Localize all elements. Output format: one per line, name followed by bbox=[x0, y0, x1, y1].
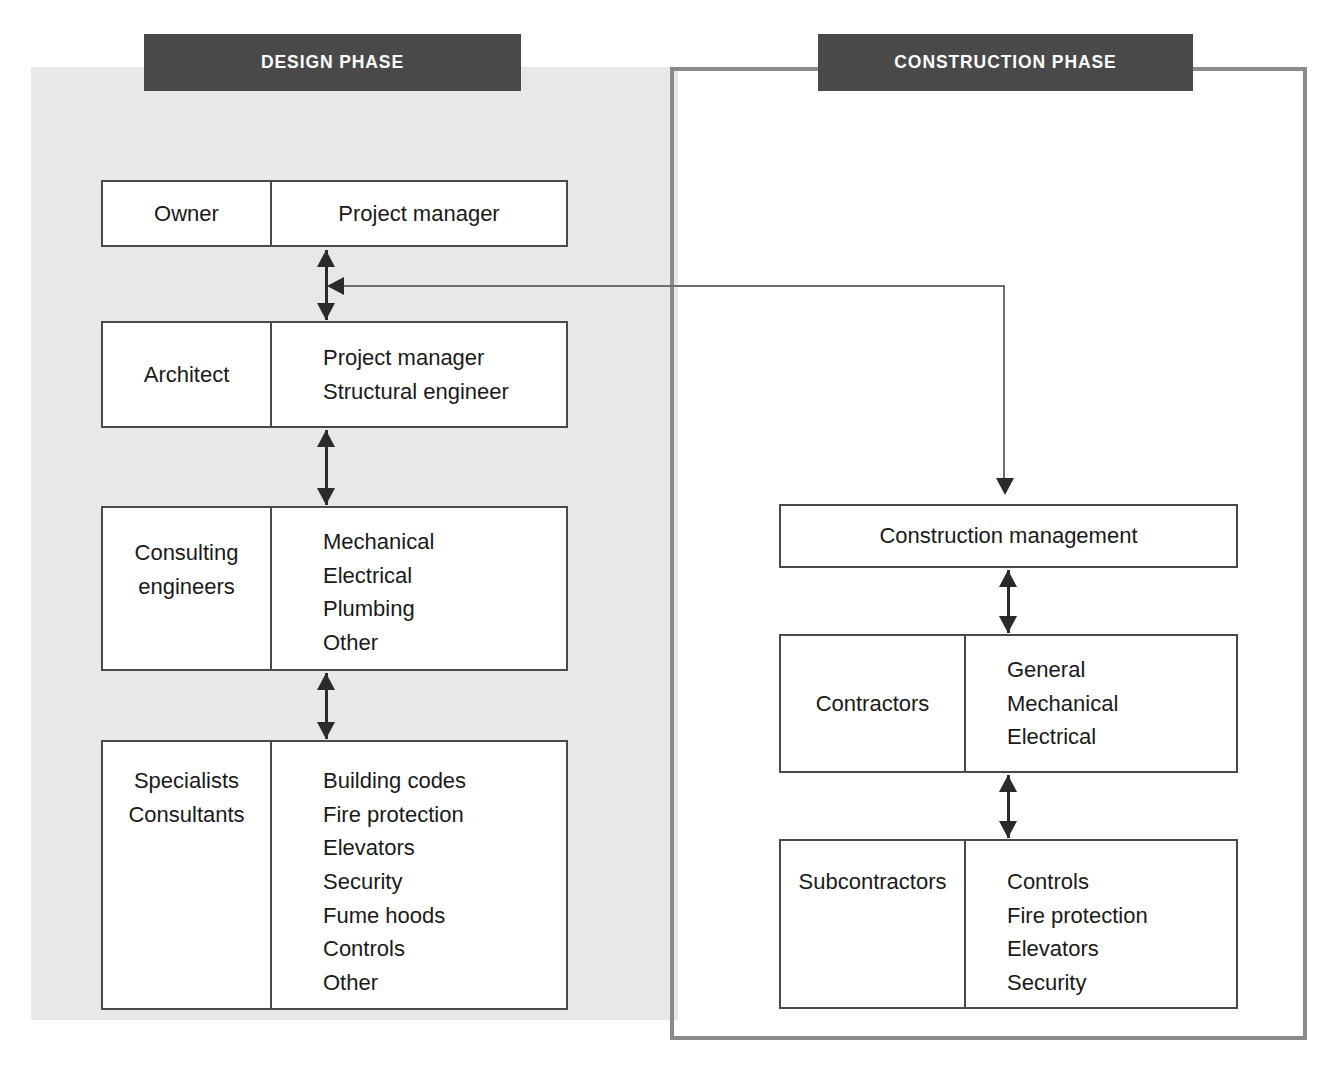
box-specialists-consultants-member: Fume hoods bbox=[323, 899, 445, 933]
box-architect[interactable]: Architect Project manager Structural eng… bbox=[101, 321, 568, 428]
arrow-down-icon bbox=[999, 821, 1017, 838]
diagram-canvas: DESIGN PHASE CONSTRUCTION PHASE Owner Pr… bbox=[0, 0, 1335, 1069]
box-subcontractors-member: Security bbox=[1007, 966, 1086, 1000]
box-consulting-engineers[interactable]: Consulting engineers Mechanical Electric… bbox=[101, 506, 568, 671]
arrow-down-icon bbox=[999, 616, 1017, 633]
arrow-down-icon bbox=[317, 722, 335, 739]
arrow-up-icon bbox=[317, 250, 335, 267]
box-subcontractors-members-cell: Controls Fire protection Elevators Secur… bbox=[966, 841, 1236, 1007]
box-consulting-engineers-member: Other bbox=[323, 626, 378, 660]
box-contractors-members-cell: General Mechanical Electrical bbox=[966, 636, 1236, 771]
box-contractors-role: Contractors bbox=[816, 687, 930, 721]
box-consulting-engineers-member: Plumbing bbox=[323, 592, 415, 626]
arrow-down-icon bbox=[317, 488, 335, 505]
arrow-down-icon bbox=[317, 303, 335, 320]
arrow-down-icon bbox=[996, 478, 1014, 495]
design-phase-banner: DESIGN PHASE bbox=[144, 34, 521, 91]
design-phase-banner-label: DESIGN PHASE bbox=[261, 52, 404, 73]
box-consulting-engineers-members-cell: Mechanical Electrical Plumbing Other bbox=[272, 508, 566, 669]
box-subcontractors-member: Elevators bbox=[1007, 932, 1099, 966]
arrow-left-icon bbox=[327, 277, 344, 295]
box-contractors[interactable]: Contractors General Mechanical Electrica… bbox=[779, 634, 1238, 773]
box-subcontractors-member: Fire protection bbox=[1007, 899, 1148, 933]
box-subcontractors[interactable]: Subcontractors Controls Fire protection … bbox=[779, 839, 1238, 1009]
box-specialists-consultants-role-cell: Specialists Consultants bbox=[103, 742, 272, 1008]
construction-phase-banner: CONSTRUCTION PHASE bbox=[818, 34, 1193, 91]
box-consulting-engineers-member: Mechanical bbox=[323, 525, 434, 559]
box-construction-management-label: Construction management bbox=[879, 519, 1137, 553]
connector-line bbox=[340, 285, 1005, 287]
box-specialists-consultants-members-cell: Building codes Fire protection Elevators… bbox=[272, 742, 566, 1008]
box-construction-management[interactable]: Construction management bbox=[779, 504, 1238, 568]
box-specialists-consultants-role: Consultants bbox=[128, 798, 244, 832]
box-architect-member: Project manager bbox=[323, 341, 484, 375]
box-owner-role-cell: Owner bbox=[103, 182, 272, 245]
box-specialists-consultants-role: Specialists bbox=[134, 764, 239, 798]
box-consulting-engineers-role: engineers bbox=[138, 570, 235, 604]
box-subcontractors-role-cell: Subcontractors bbox=[781, 841, 966, 1007]
construction-phase-banner-label: CONSTRUCTION PHASE bbox=[894, 52, 1116, 73]
box-architect-member: Structural engineer bbox=[323, 375, 509, 409]
connector-line bbox=[1003, 285, 1005, 490]
box-owner[interactable]: Owner Project manager bbox=[101, 180, 568, 247]
box-contractors-member: Electrical bbox=[1007, 720, 1096, 754]
box-specialists-consultants[interactable]: Specialists Consultants Building codes F… bbox=[101, 740, 568, 1010]
box-architect-role: Architect bbox=[144, 358, 230, 392]
box-specialists-consultants-member: Elevators bbox=[323, 831, 415, 865]
box-subcontractors-role: Subcontractors bbox=[799, 865, 947, 899]
box-owner-role: Owner bbox=[154, 197, 219, 231]
box-specialists-consultants-member: Other bbox=[323, 966, 378, 1000]
box-subcontractors-member: Controls bbox=[1007, 865, 1089, 899]
box-contractors-role-cell: Contractors bbox=[781, 636, 966, 771]
arrow-up-icon bbox=[999, 570, 1017, 587]
box-contractors-member: Mechanical bbox=[1007, 687, 1118, 721]
box-owner-members-cell: Project manager bbox=[272, 182, 566, 245]
box-architect-members-cell: Project manager Structural engineer bbox=[272, 323, 566, 426]
box-owner-member: Project manager bbox=[338, 197, 499, 231]
box-contractors-member: General bbox=[1007, 653, 1085, 687]
arrow-up-icon bbox=[999, 775, 1017, 792]
arrow-up-icon bbox=[317, 430, 335, 447]
box-specialists-consultants-member: Security bbox=[323, 865, 402, 899]
box-consulting-engineers-role: Consulting bbox=[135, 536, 239, 570]
arrow-up-icon bbox=[317, 673, 335, 690]
box-specialists-consultants-member: Building codes bbox=[323, 764, 466, 798]
box-architect-role-cell: Architect bbox=[103, 323, 272, 426]
box-specialists-consultants-member: Fire protection bbox=[323, 798, 464, 832]
box-specialists-consultants-member: Controls bbox=[323, 932, 405, 966]
box-consulting-engineers-role-cell: Consulting engineers bbox=[103, 508, 272, 669]
box-consulting-engineers-member: Electrical bbox=[323, 559, 412, 593]
